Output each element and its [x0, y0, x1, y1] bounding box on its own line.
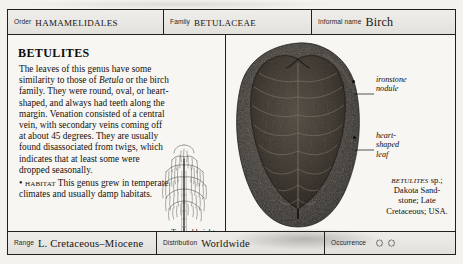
page-frame: Order Hamamelidales Family Betulaceae In… — [7, 9, 456, 255]
family-label: Family — [170, 18, 190, 26]
order-value: Hamamelidales — [35, 15, 117, 30]
footer-cell-occurrence: Occurrence — [324, 232, 455, 254]
ironstone-nodule-label: ironstone nodule — [376, 75, 407, 94]
occurrence-label: Occurrence — [331, 239, 366, 247]
distribution-label: Distribution — [163, 239, 197, 247]
birch-tree-illustration — [148, 131, 220, 231]
heart-shaped-leaf-label-line-1: heart- — [376, 131, 399, 140]
description-text: The leaves of this genus have some simil… — [19, 64, 169, 200]
ironstone-nodule-label-line-2: nodule — [376, 84, 407, 93]
specimen-caption: Betulites sp.; Dakota Sand- stone; Late … — [369, 175, 455, 216]
heart-shaped-leaf-dot-icon — [353, 136, 356, 139]
habitat-bullet-icon: • — [19, 177, 23, 188]
description-part-2: or the birch family. They were round, ov… — [19, 75, 169, 175]
footer-cell-distribution: Distribution Worldwide — [156, 232, 324, 254]
specimen-caption-line-4: Cretaceous; USA. — [369, 206, 455, 216]
occurrence-starburst-icon — [387, 239, 396, 248]
specimen-caption-line-3: stone; Late — [369, 195, 455, 205]
footer-cell-range: Range L. Cretaceous–Miocene — [8, 232, 156, 254]
ironstone-nodule-leader — [354, 81, 374, 83]
page-title: Betulites — [18, 42, 90, 62]
ironstone-nodule-label-line-1: ironstone — [376, 75, 407, 84]
habitat-term: HABITAT — [25, 177, 56, 188]
text-column: Betulites The leaves of this genus have … — [8, 35, 226, 231]
fossil-encyclopedia-page: Order Hamamelidales Family Betulaceae In… — [0, 0, 463, 264]
fossil-leaf-photograph — [228, 37, 368, 231]
taxonomy-header-row: Order Hamamelidales Family Betulaceae In… — [8, 10, 455, 35]
informal-name-value: Birch — [365, 15, 393, 30]
informal-name-label: Informal name — [318, 18, 361, 26]
heart-shaped-leaf-label-line-3: leaf — [376, 150, 399, 159]
distribution-value: Worldwide — [201, 238, 250, 249]
header-cell-informal-name: Informal name Birch — [311, 10, 455, 34]
specimen-genus-suffix: sp.; — [429, 175, 443, 185]
occurrence-glyph-group — [375, 239, 396, 248]
order-label: Order — [14, 18, 31, 26]
specimen-genus: Betulites — [391, 175, 428, 185]
scan-smudge — [30, 0, 330, 9]
specimen-caption-line-2: Dakota Sand- — [369, 185, 455, 195]
heart-shaped-leaf-label-line-2: shaped — [376, 140, 399, 149]
occurrence-starburst-icon — [375, 239, 384, 248]
header-cell-order: Order Hamamelidales — [8, 10, 163, 34]
range-footer-row: Range L. Cretaceous–Miocene Distribution… — [8, 231, 455, 254]
range-value: L. Cretaceous–Miocene — [38, 238, 143, 249]
range-label: Range — [14, 239, 34, 247]
heart-shaped-leaf-leader — [355, 137, 374, 139]
ironstone-nodule-dot-icon — [352, 80, 355, 83]
heart-shaped-leaf-label: heart- shaped leaf — [376, 131, 399, 159]
genus-betula-italic: Betula — [99, 75, 123, 85]
specimen-column: ironstone nodule heart- shaped leaf Betu… — [226, 35, 455, 231]
header-cell-family: Family Betulaceae — [163, 10, 311, 34]
family-value: Betulaceae — [194, 15, 256, 30]
main-content: Betulites The leaves of this genus have … — [8, 35, 455, 231]
